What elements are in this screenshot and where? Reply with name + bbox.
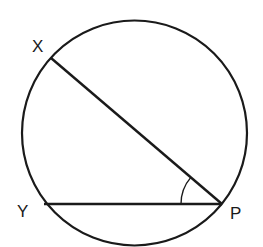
angle-marker-arc	[181, 177, 191, 204]
circle-diagram: X Y P	[0, 0, 263, 247]
chord-xp	[51, 58, 222, 204]
point-label-p: P	[230, 204, 241, 223]
circle	[22, 21, 247, 246]
point-label-y: Y	[17, 202, 28, 221]
point-label-x: X	[32, 37, 43, 56]
